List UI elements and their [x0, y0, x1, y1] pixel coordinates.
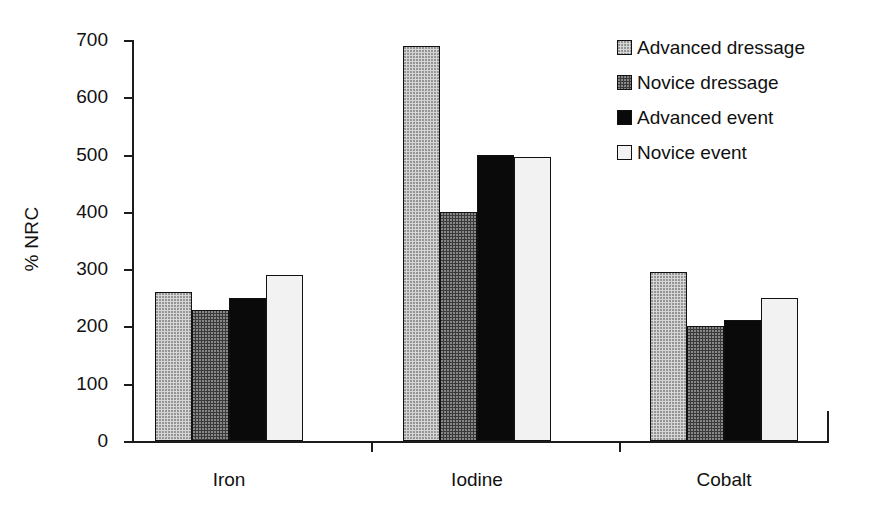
bar-cobalt-novice-event	[761, 298, 798, 441]
legend-label-advanced-dressage: Advanced dressage	[637, 38, 805, 57]
bar-iodine-novice-event	[514, 157, 551, 441]
x-tick-mark-0	[371, 443, 373, 452]
y-tick-label-600: 600	[48, 87, 108, 106]
legend-item-advanced-dressage: Advanced dressage	[617, 30, 805, 65]
y-tick-mark-200	[124, 326, 132, 328]
x-axis-label-iodine: Iodine	[407, 470, 547, 489]
x-axis-label-iron: Iron	[159, 470, 299, 489]
y-tick-label-400: 400	[48, 202, 108, 221]
bar-chart: % NRC 700 600 500 400 300 200 100 0 Iron…	[0, 0, 885, 510]
bar-iron-novice-dressage	[192, 310, 229, 441]
y-tick-label-500: 500	[48, 145, 108, 164]
y-tick-mark-100	[124, 384, 132, 386]
y-tick-label-300: 300	[48, 259, 108, 278]
y-tick-mark-0	[124, 441, 132, 443]
y-tick-mark-400	[124, 212, 132, 214]
bar-iron-advanced-event	[229, 298, 266, 441]
y-axis-line	[132, 40, 134, 443]
x-tick-mark-1	[619, 443, 621, 452]
legend-swatch-advanced-event	[617, 110, 632, 125]
legend-label-novice-event: Novice event	[637, 143, 747, 162]
x-axis-line	[132, 441, 829, 443]
bar-iodine-advanced-dressage	[403, 46, 440, 441]
y-tick-label-200: 200	[48, 316, 108, 335]
bar-iron-advanced-dressage	[155, 292, 192, 441]
legend-item-novice-dressage: Novice dressage	[617, 65, 805, 100]
y-tick-mark-300	[124, 269, 132, 271]
legend-swatch-advanced-dressage	[617, 40, 632, 55]
y-tick-mark-600	[124, 97, 132, 99]
y-tick-label-0: 0	[48, 431, 108, 450]
legend-label-novice-dressage: Novice dressage	[637, 73, 779, 92]
legend-label-advanced-event: Advanced event	[637, 108, 773, 127]
bar-iodine-advanced-event	[477, 155, 514, 441]
y-tick-label-100: 100	[48, 374, 108, 393]
y-tick-mark-700	[124, 40, 132, 42]
bar-iron-novice-event	[266, 275, 303, 441]
bar-cobalt-novice-dressage	[687, 326, 724, 441]
x-axis-label-cobalt: Cobalt	[654, 470, 794, 489]
y-tick-label-700: 700	[48, 30, 108, 49]
chart-legend: Advanced dressageNovice dressageAdvanced…	[617, 30, 805, 170]
bar-iodine-novice-dressage	[440, 212, 477, 441]
bar-cobalt-advanced-event	[724, 320, 761, 441]
y-axis-title: % NRC	[21, 169, 43, 309]
legend-item-novice-event: Novice event	[617, 135, 805, 170]
legend-swatch-novice-event	[617, 145, 632, 160]
plot-right-edge	[827, 411, 829, 443]
legend-item-advanced-event: Advanced event	[617, 100, 805, 135]
legend-swatch-novice-dressage	[617, 75, 632, 90]
bar-cobalt-advanced-dressage	[650, 272, 687, 441]
y-tick-mark-500	[124, 155, 132, 157]
